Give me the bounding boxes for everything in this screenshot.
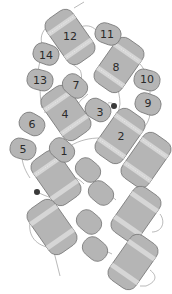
pad-label: 12 [63,30,77,43]
pad-label: 10 [140,73,154,86]
connector-dot [111,103,117,109]
pad-label: 11 [100,28,114,41]
pad-body [73,206,106,238]
pad-label: 4 [62,108,69,121]
pad-label: 6 [29,118,36,131]
pad-body [79,233,112,265]
pad-label: 2 [118,130,125,143]
pad-unlabeled-right-low[interactable] [104,231,161,294]
electrode-diagram: 12 8 4 2 11 14 13 7 10 9 3 6 5 1 [0,0,172,294]
pad-label: 9 [145,97,152,110]
pad-label: 3 [97,106,104,119]
pad-label: 5 [20,143,27,156]
pad-label: 14 [39,49,53,62]
connector-dot [34,189,40,195]
pad-label: 8 [113,61,120,74]
pad-unlabeled-d[interactable] [79,233,112,265]
pad-label: 1 [61,145,68,158]
pad-label: 13 [33,74,47,87]
pad-body [104,231,161,294]
pad-unlabeled-c[interactable] [73,206,106,238]
pad-unlabeled-left-low[interactable] [23,196,80,259]
wire [74,2,84,8]
pad-label: 7 [73,79,80,92]
pad-body [23,196,80,259]
